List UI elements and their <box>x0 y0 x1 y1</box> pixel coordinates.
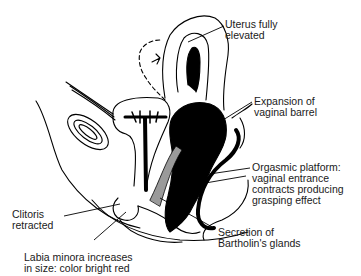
label-orgasmic-platform: Orgasmic platform: vaginal entrance cont… <box>252 162 344 206</box>
leader-clitoris <box>64 204 120 216</box>
label-uterus-fully-elevated: Uterus fully elevated <box>225 19 278 41</box>
diagram-artwork <box>0 0 361 276</box>
label-bartholin-secretion: Secretion of Bartholin's glands <box>218 227 301 249</box>
pubic-bone-outer <box>62 108 115 156</box>
label-expansion-of-vaginal-barrel: Expansion of vaginal barrel <box>254 96 317 118</box>
label-labia-minora: Labia minora increases in size: color br… <box>24 252 133 274</box>
clitoris <box>113 198 138 220</box>
label-clitoris-retracted: Clitoris retracted <box>12 209 53 231</box>
anatomy-diagram: Uterus fully elevated Expansion of vagin… <box>0 0 361 276</box>
